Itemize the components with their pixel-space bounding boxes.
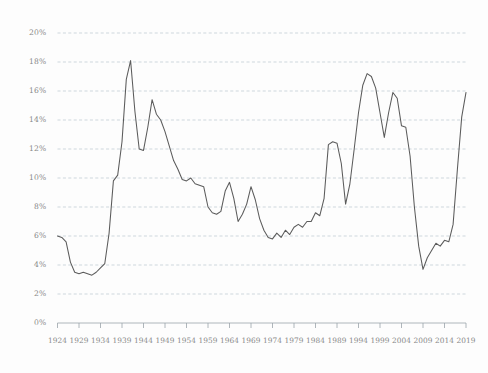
y-axis-tick-label: 8% xyxy=(34,202,46,211)
x-axis-tick-label: 1999 xyxy=(370,336,389,345)
y-axis-tick-label: 4% xyxy=(34,260,46,269)
x-axis-tick-label: 2019 xyxy=(456,336,475,345)
y-axis-tick-label: 12% xyxy=(29,144,46,153)
y-axis-tick-label: 10% xyxy=(29,173,46,182)
y-axis-tick-label: 14% xyxy=(29,115,46,124)
x-axis-tick-label: 1949 xyxy=(155,336,174,345)
x-axis-tick-label: 1924 xyxy=(48,336,67,345)
y-axis-tick-label: 0% xyxy=(34,318,46,327)
x-axis-tick-label: 2014 xyxy=(435,336,454,345)
chart-page: 0%2%4%6%8%10%12%14%16%18%20% 19241929193… xyxy=(0,0,488,373)
line-chart: 0%2%4%6%8%10%12%14%16%18%20% 19241929193… xyxy=(0,0,488,373)
x-axis-tick-label: 1954 xyxy=(177,336,196,345)
x-axis-tick-label: 2009 xyxy=(413,336,432,345)
x-axis-tick-label: 1964 xyxy=(220,336,239,345)
y-axis-tick-label: 6% xyxy=(34,231,46,240)
x-axis-tick-labels: 1924192919341939194419491954195919641969… xyxy=(48,336,476,345)
y-axis-tick-label: 20% xyxy=(29,28,46,37)
x-axis-tick-label: 1974 xyxy=(263,336,282,345)
x-axis-tick-label: 1979 xyxy=(284,336,303,345)
x-axis-tick-label: 1944 xyxy=(134,336,153,345)
x-axis-tick-label: 2004 xyxy=(392,336,411,345)
x-axis xyxy=(58,323,467,328)
data-series-group xyxy=(58,61,467,276)
x-axis-tick-label: 1969 xyxy=(241,336,260,345)
x-axis-tick-label: 1994 xyxy=(349,336,368,345)
series-line-unemployment-rate xyxy=(58,61,467,276)
x-axis-tick-label: 1934 xyxy=(91,336,110,345)
x-axis-tick-label: 1939 xyxy=(112,336,131,345)
x-axis-tick-label: 1989 xyxy=(327,336,346,345)
x-axis-tick-label: 1984 xyxy=(306,336,325,345)
y-axis-tick-labels: 0%2%4%6%8%10%12%14%16%18%20% xyxy=(29,28,46,327)
x-axis-tick-label: 1929 xyxy=(69,336,88,345)
y-axis-tick-label: 18% xyxy=(29,57,46,66)
x-axis-tick-label: 1959 xyxy=(198,336,217,345)
y-axis-tick-label: 2% xyxy=(34,289,46,298)
y-axis-tick-label: 16% xyxy=(29,86,46,95)
